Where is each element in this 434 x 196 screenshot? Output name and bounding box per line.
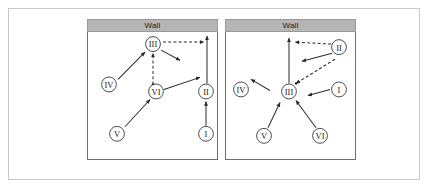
edge-ii-to-wall-right <box>295 42 331 44</box>
edge-ii-to-iii-dashed <box>296 59 335 83</box>
node-iii-right: III <box>282 84 297 99</box>
wall-label-right: Wall <box>225 19 356 32</box>
edge-v-to-iii-right <box>268 103 280 128</box>
node-i-right: I <box>332 82 347 97</box>
node-label-iii-right: III <box>285 87 294 97</box>
node-v-right: V <box>257 128 272 143</box>
edge-i-to-iii-right <box>308 89 330 95</box>
diagram-left-svg: III IV VI II V <box>88 32 217 159</box>
node-label-v-left: V <box>114 129 121 139</box>
node-vi-right: VI <box>313 128 328 143</box>
edge-iii-to-iv-right <box>251 79 270 90</box>
node-label-i-right: I <box>338 85 341 95</box>
panel-right: Wall <box>225 19 356 160</box>
edge-ii-to-iii-solid <box>302 53 332 61</box>
node-iv-left: IV <box>102 77 117 92</box>
node-iii-left: III <box>146 37 161 52</box>
diagram-stage-left: III IV VI II V <box>87 32 218 160</box>
node-vi-left: VI <box>149 84 164 99</box>
dot-iii-right <box>295 82 297 84</box>
node-iv-right: IV <box>234 82 249 97</box>
node-ii-left: II <box>199 84 214 99</box>
panel-left: Wall <box>87 19 218 160</box>
edge-v-to-vi <box>125 100 150 127</box>
node-label-vi-right: VI <box>316 131 325 141</box>
edge-vi-to-ii <box>164 77 200 89</box>
edge-vi-to-iii-right <box>296 101 316 128</box>
figure-frame: Wall <box>8 8 420 180</box>
node-i-left: I <box>199 126 214 141</box>
edge-iii-to-free <box>161 50 180 60</box>
edge-iv-to-iii <box>118 52 145 79</box>
node-ii-right: II <box>332 40 347 55</box>
diagram-right-svg: II IV III I V <box>226 32 355 159</box>
node-label-iii-left: III <box>149 39 158 49</box>
node-label-vi-left: VI <box>152 87 161 97</box>
node-v-left: V <box>110 126 125 141</box>
node-label-v-right: V <box>261 131 268 141</box>
wall-label-left: Wall <box>87 19 218 32</box>
node-label-iv-left: IV <box>105 80 115 90</box>
node-label-i-left: I <box>205 129 208 139</box>
diagram-stage-right: II IV III I V <box>225 32 356 160</box>
node-label-ii-right: II <box>336 43 342 53</box>
node-label-ii-left: II <box>203 87 209 97</box>
node-label-iv-right: IV <box>237 85 247 95</box>
